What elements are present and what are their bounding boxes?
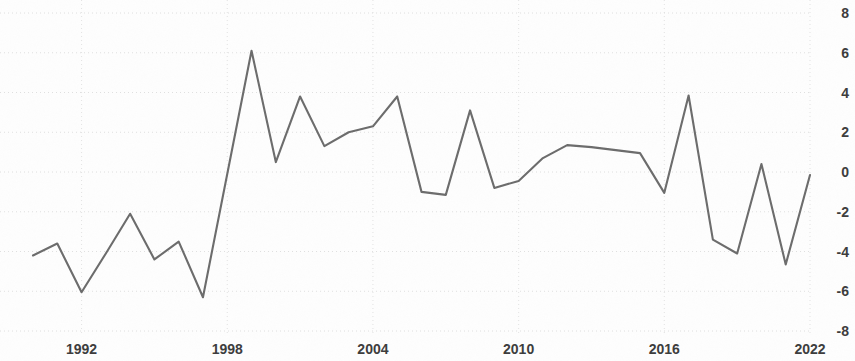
x-axis-tick-label: 2010 [503, 341, 534, 357]
y-axis-tick-label: -8 [837, 323, 849, 339]
y-axis-tick-label: 0 [841, 164, 849, 180]
y-axis-tick-label: -2 [837, 204, 849, 220]
y-axis-tick-label: 4 [841, 85, 849, 101]
x-axis-tick-label: 2004 [357, 341, 388, 357]
line-chart: 86420-2-4-6-8 199219982004201020162022 [0, 0, 855, 361]
x-axis-tick-label: 1998 [212, 341, 243, 357]
x-axis-tick-label: 2016 [649, 341, 680, 357]
chart-plot-area [0, 0, 855, 361]
y-axis-tick-label: 8 [841, 5, 849, 21]
y-axis-tick-label: -4 [837, 244, 849, 260]
y-axis-tick-label: 2 [841, 124, 849, 140]
y-axis-tick-label: -6 [837, 283, 849, 299]
x-axis-tick-label: 1992 [66, 341, 97, 357]
data-series-line [33, 51, 810, 297]
horizontal-gridlines [0, 13, 812, 331]
x-axis-tick-label: 2022 [794, 341, 825, 357]
y-axis-tick-label: 6 [841, 45, 849, 61]
